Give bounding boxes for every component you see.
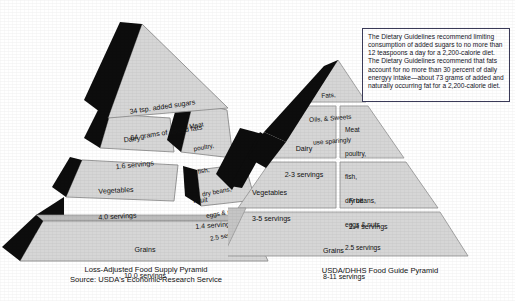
dietary-guidelines-text: The Dietary Guidelines recommend limitin… xyxy=(368,33,504,90)
right-vegetables-label: Vegetables 3-5 servings xyxy=(252,172,332,241)
right-grains-label: Grains 8-11 servings xyxy=(323,230,403,299)
left-caption-line1: Loss-Adjusted Food Supply Pyramid xyxy=(36,265,256,275)
left-grains-label: Grains 10.0 servings xyxy=(100,229,190,298)
right-vegetables-line2: 3-5 servings xyxy=(252,215,332,224)
dietary-guidelines-textbox: The Dietary Guidelines recommend limitin… xyxy=(362,28,510,102)
right-caption-line1: USDA/DHHS Food Guide Pyramid xyxy=(285,266,475,276)
left-dairy-line1: Dairy xyxy=(98,132,167,148)
left-caption-line2: Source: USDA's Economic Research Service xyxy=(36,275,256,285)
left-grains-line1: Grains xyxy=(100,246,190,255)
right-dairy-line1: Dairy xyxy=(272,145,336,154)
right-meat-line1: Meat xyxy=(345,126,401,134)
figure-canvas: 34 tsp. added sugars 64 grams of added f… xyxy=(0,0,515,301)
right-fruit-line1: Fruit xyxy=(349,197,419,206)
left-vegetables-line2: 4.0 servings xyxy=(74,210,160,223)
right-vegetables-line1: Vegetables xyxy=(252,189,332,198)
right-grains-line1: Grains xyxy=(323,247,403,256)
right-meat-line2: poultry, xyxy=(345,150,401,158)
left-pyramid-caption: Loss-Adjusted Food Supply Pyramid Source… xyxy=(36,265,256,284)
right-pyramid-caption: USDA/DHHS Food Guide Pyramid xyxy=(285,266,475,276)
left-vegetables-line1: Vegetables xyxy=(73,185,159,198)
right-apex-line1: Fats, xyxy=(297,89,359,102)
